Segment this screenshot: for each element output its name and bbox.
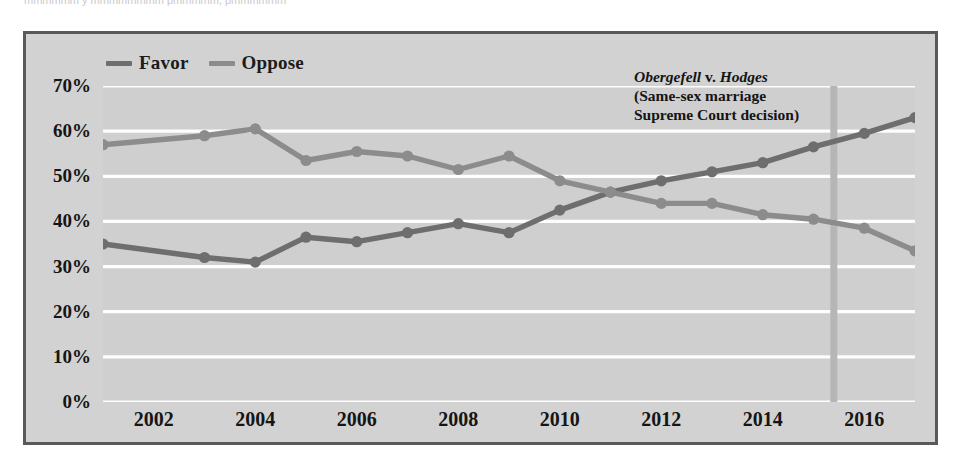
series-layer bbox=[103, 112, 915, 268]
data-point bbox=[656, 175, 667, 186]
data-point bbox=[199, 252, 210, 263]
annotation-case-name-b: Hodges bbox=[720, 68, 768, 85]
x-tick-label: 2014 bbox=[743, 408, 783, 431]
plot-area bbox=[103, 86, 915, 402]
y-tick-label: 20% bbox=[53, 301, 91, 323]
legend-label-favor: Favor bbox=[139, 52, 189, 74]
annotation-line-1: Obergefell v. Hodges bbox=[634, 67, 884, 86]
annotation-line-3: Supreme Court decision) bbox=[634, 105, 884, 124]
x-axis: 20022004200620082010201220142016 bbox=[103, 406, 915, 440]
data-point bbox=[554, 175, 565, 186]
y-tick-label: 0% bbox=[63, 391, 92, 413]
data-point bbox=[402, 150, 413, 161]
annotation-line-2: (Same-sex marriage bbox=[634, 86, 884, 105]
y-axis: 0%10%20%30%40%50%60%70% bbox=[26, 86, 98, 402]
data-point bbox=[605, 187, 616, 198]
data-point bbox=[402, 227, 413, 238]
data-point bbox=[300, 232, 311, 243]
cropped-caption-above-figure: mmmmmm y mmmmmmmm pmmmmm, pmmmmmm bbox=[24, 0, 444, 6]
data-point bbox=[453, 164, 464, 175]
data-point bbox=[250, 123, 261, 134]
data-point bbox=[808, 141, 819, 152]
x-tick-label: 2008 bbox=[438, 408, 478, 431]
data-point bbox=[300, 155, 311, 166]
y-tick-label: 40% bbox=[53, 210, 91, 232]
data-point bbox=[859, 128, 870, 139]
data-point bbox=[453, 218, 464, 229]
y-tick-label: 60% bbox=[53, 120, 91, 142]
annotation-case-name-a: Obergefell bbox=[634, 68, 701, 85]
legend-swatch-favor-icon bbox=[106, 61, 132, 66]
legend-swatch-oppose-icon bbox=[209, 61, 235, 66]
x-tick-label: 2016 bbox=[844, 408, 884, 431]
data-point bbox=[351, 146, 362, 157]
legend-item-favor: Favor bbox=[106, 52, 189, 74]
data-point bbox=[103, 139, 109, 150]
data-point bbox=[250, 257, 261, 268]
x-tick-label: 2010 bbox=[540, 408, 580, 431]
data-point bbox=[656, 198, 667, 209]
y-tick-label: 70% bbox=[53, 75, 91, 97]
data-point bbox=[503, 227, 514, 238]
x-tick-label: 2006 bbox=[337, 408, 377, 431]
y-tick-label: 30% bbox=[53, 256, 91, 278]
data-point bbox=[757, 209, 768, 220]
y-tick-label: 10% bbox=[53, 346, 91, 368]
chart-svg bbox=[103, 86, 915, 402]
data-point bbox=[757, 157, 768, 168]
chart-legend: Favor Oppose bbox=[106, 51, 304, 75]
chart-annotation: Obergefell v. Hodges (Same-sex marriage … bbox=[634, 67, 884, 124]
legend-label-oppose: Oppose bbox=[242, 52, 304, 74]
data-point bbox=[503, 150, 514, 161]
data-point bbox=[808, 214, 819, 225]
x-tick-label: 2004 bbox=[235, 408, 275, 431]
series-line bbox=[103, 118, 915, 263]
legend-item-oppose: Oppose bbox=[209, 52, 304, 74]
data-point bbox=[859, 223, 870, 234]
data-point bbox=[351, 236, 362, 247]
x-tick-label: 2002 bbox=[134, 408, 174, 431]
annotation-versus: v. bbox=[701, 68, 720, 85]
data-point bbox=[199, 130, 210, 141]
data-point bbox=[706, 166, 717, 177]
data-point bbox=[103, 238, 109, 249]
x-tick-label: 2012 bbox=[641, 408, 681, 431]
y-tick-label: 50% bbox=[53, 165, 91, 187]
data-point bbox=[706, 198, 717, 209]
data-point bbox=[554, 205, 565, 216]
chart-figure-frame: Favor Oppose 0%10%20%30%40%50%60%70% 200… bbox=[23, 31, 938, 445]
